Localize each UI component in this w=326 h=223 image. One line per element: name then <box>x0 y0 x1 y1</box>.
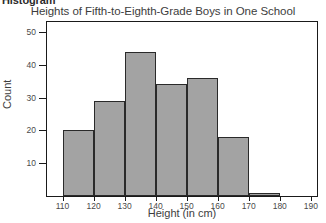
y-axis-tick <box>39 163 46 164</box>
y-axis-tick <box>39 32 46 33</box>
y-axis-tick-label: 10 <box>27 159 36 168</box>
x-axis-title: Height (in cm) <box>46 207 318 219</box>
histogram-bar <box>125 52 156 196</box>
histogram-bar <box>218 137 249 196</box>
y-axis-tick-label: 20 <box>27 126 36 135</box>
chart-title: Heights of Fifth-to-Eighth-Grade Boys in… <box>0 5 326 17</box>
y-axis-title: Count <box>1 80 13 109</box>
y-axis-tick-label: 30 <box>27 93 36 102</box>
histogram-bar <box>187 78 218 196</box>
bars-layer <box>47 22 317 196</box>
y-axis-tick-label: 50 <box>27 28 36 37</box>
histogram-bar <box>63 130 94 196</box>
y-axis-tick-label: 40 <box>27 60 36 69</box>
histogram-bar <box>156 84 187 196</box>
y-axis: Count 1020304050 <box>0 0 46 223</box>
histogram-figure: Histogram Heights of Fifth-to-Eighth-Gra… <box>0 0 326 223</box>
plot-area <box>47 22 317 196</box>
y-axis-tick <box>39 130 46 131</box>
histogram-bar <box>94 101 125 196</box>
y-axis-tick <box>39 98 46 99</box>
y-axis-tick <box>39 65 46 66</box>
